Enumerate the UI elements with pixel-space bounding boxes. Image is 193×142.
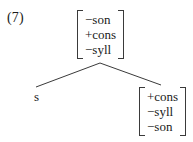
bracket-right-icon (180, 87, 186, 136)
figure-container: (7) −son +cons −syll s +cons −syll −son (0, 0, 193, 142)
feature-row: −syll (147, 104, 178, 119)
daughter-feature-matrix: +cons −syll −son (139, 87, 186, 136)
mother-feature-matrix: −son +cons −syll (77, 10, 124, 59)
feature-row: +cons (85, 27, 116, 42)
feature-row: −son (147, 119, 178, 134)
feature-row: −son (85, 12, 116, 27)
feature-row: −syll (85, 42, 116, 57)
bracket-right-icon (118, 10, 124, 59)
feature-row: +cons (147, 89, 178, 104)
daughter-feature-rows: +cons −syll −son (145, 87, 180, 136)
branch-left-line (36, 63, 100, 87)
terminal-node-s: s (34, 89, 39, 104)
mother-feature-rows: −son +cons −syll (83, 10, 118, 59)
branch-right-line (100, 63, 161, 85)
